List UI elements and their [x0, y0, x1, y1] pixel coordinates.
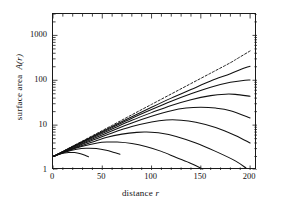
- series-asymptote: [53, 51, 250, 157]
- x-axis-title-variable: r: [155, 188, 159, 198]
- y-axis-title-text: surface area: [14, 75, 24, 121]
- figure-surface-area-vs-distance: 1101001000 050100150200 distance r surfa…: [0, 0, 281, 212]
- x-tick-label-150: 150: [193, 172, 206, 181]
- plot-area: [52, 13, 256, 169]
- x-tick-label-50: 50: [97, 172, 106, 181]
- series-curve-5: [53, 120, 250, 157]
- series-curve-3: [53, 94, 250, 156]
- x-tick-label-200: 200: [243, 172, 256, 181]
- x-axis-title: distance r: [0, 188, 281, 198]
- x-axis-title-text: distance: [122, 188, 153, 198]
- plot-svg: [53, 14, 257, 170]
- x-tick-label-100: 100: [144, 172, 157, 181]
- series-curve-9: [53, 152, 88, 156]
- y-axis-title: surface areaA(r): [14, 12, 24, 162]
- x-axis-tick-labels: 050100150200: [0, 172, 281, 186]
- series-curve-6: [53, 132, 246, 168]
- x-tick-label-0: 0: [50, 172, 54, 181]
- y-axis-title-variable: A(r): [14, 54, 24, 70]
- series-curve-8: [53, 148, 120, 156]
